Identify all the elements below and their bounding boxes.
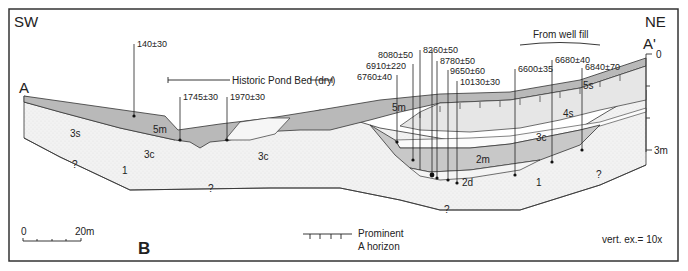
unit-label: 1: [122, 165, 128, 176]
axis-top-label: 0: [656, 49, 662, 60]
unit-label: 2d: [462, 177, 473, 188]
cross-section-diagram: 0 3m SW NE: [0, 0, 688, 271]
unit-label: 5s: [583, 80, 594, 91]
unknown-mark: ?: [208, 183, 214, 194]
legend-line-1: Prominent: [358, 228, 404, 239]
well-fill-label: From well fill: [533, 29, 589, 40]
unit-label: 3c: [144, 149, 155, 160]
scale-bar-end: 20m: [75, 226, 94, 237]
date-label: 6600±35: [518, 64, 553, 74]
section-end-left: A: [19, 79, 29, 96]
date-label: 8780±50: [440, 56, 475, 66]
depth-axis: [646, 54, 652, 152]
unit-label: 2m: [476, 154, 490, 165]
legend-line-2: A horizon: [358, 241, 400, 252]
unknown-mark: ?: [444, 204, 450, 215]
unit-label: 3s: [70, 128, 81, 139]
unknown-mark: ?: [72, 159, 78, 170]
unit-label: 5m: [392, 102, 406, 113]
scale-bar: [23, 238, 81, 241]
unit-label: 4s: [563, 108, 574, 119]
unit-label: 3c: [258, 151, 269, 162]
date-label: 8080±50: [378, 50, 413, 60]
unit-label: 5m: [153, 124, 167, 135]
unit-label: 1: [536, 177, 542, 188]
section-end-right: A': [643, 35, 656, 52]
date-label: 1970±30: [230, 92, 265, 102]
axis-bottom-label: 3m: [654, 145, 668, 156]
date-label: 140±30: [137, 39, 167, 49]
date-label: 6840±70: [585, 62, 620, 72]
well-fill-bracket: [520, 43, 600, 46]
date-label: 6760±40: [357, 72, 392, 82]
date-label: 1745±30: [183, 92, 218, 102]
date-label: 9650±60: [450, 66, 485, 76]
panel-label: B: [138, 239, 150, 258]
orientation-left: SW: [14, 13, 39, 30]
vertical-exaggeration: vert. ex.= 10x: [602, 234, 662, 245]
date-label: 6910±220: [366, 61, 406, 71]
date-label: 8260±50: [423, 45, 458, 55]
orientation-right: NE: [645, 13, 666, 30]
unknown-mark: ?: [596, 169, 602, 180]
a-horizon-legend-symbol: [303, 234, 352, 239]
unit-label: 3c: [536, 132, 547, 143]
date-label: 10130±30: [460, 77, 500, 87]
historic-pond-label: Historic Pond Bed (dry): [232, 75, 335, 86]
scale-bar-start: 0: [21, 226, 27, 237]
